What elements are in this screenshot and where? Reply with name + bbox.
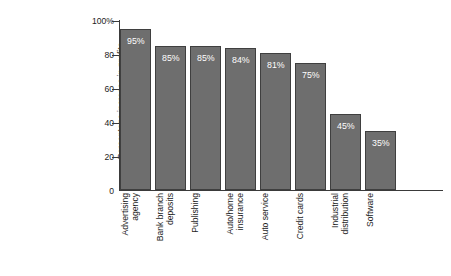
bar-value-label: 95% — [121, 36, 150, 46]
bar-auto-home-insurance: 84% — [225, 48, 256, 190]
bar-chart: Percentage increase in profits per custo… — [0, 0, 451, 276]
x-category-text: Auto service — [260, 193, 295, 273]
x-category-advertising-agency: Advertisingagency — [120, 193, 155, 231]
bar-value-label: 84% — [226, 55, 255, 65]
x-axis-category-labels: Advertisingagency Bank branchdeposits Pu… — [0, 193, 451, 276]
x-category-bank-branch-deposits: Bank branchdeposits — [155, 193, 190, 231]
bar-industrial-distribution: 45% — [330, 114, 361, 190]
x-category-auto-home-insurance: Auto/homeinsurance — [225, 193, 260, 231]
x-category-auto-service: Auto service — [260, 193, 295, 231]
x-category-text: Publishing — [190, 193, 225, 273]
bar-value-label: 81% — [261, 60, 290, 70]
bar-value-label: 85% — [191, 53, 220, 63]
x-category-text: Advertisingagency — [120, 193, 155, 273]
bar-auto-service: 81% — [260, 53, 291, 190]
x-category-credit-cards: Credit cards — [295, 193, 330, 231]
x-category-text: Bank branchdeposits — [155, 193, 190, 273]
x-category-publishing: Publishing — [190, 193, 225, 231]
bar-value-label: 35% — [366, 138, 395, 148]
x-category-industrial-distribution: Industrialdistribution — [330, 193, 365, 231]
x-category-text: Credit cards — [295, 193, 330, 273]
bar-value-label: 85% — [156, 53, 185, 63]
x-category-text: Software — [365, 193, 400, 273]
bar-value-label: 45% — [331, 121, 360, 131]
x-category-text: Auto/homeinsurance — [225, 193, 260, 273]
x-category-software: Software — [365, 193, 400, 231]
bar-value-label: 75% — [296, 70, 325, 80]
bar-publishing: 85% — [190, 46, 221, 190]
bar-credit-cards: 75% — [295, 63, 326, 190]
bar-advertising-agency: 95% — [120, 29, 151, 190]
x-category-text: Industrialdistribution — [330, 193, 365, 273]
bar-software: 35% — [365, 131, 396, 190]
bar-bank-branch-deposits: 85% — [155, 46, 186, 190]
